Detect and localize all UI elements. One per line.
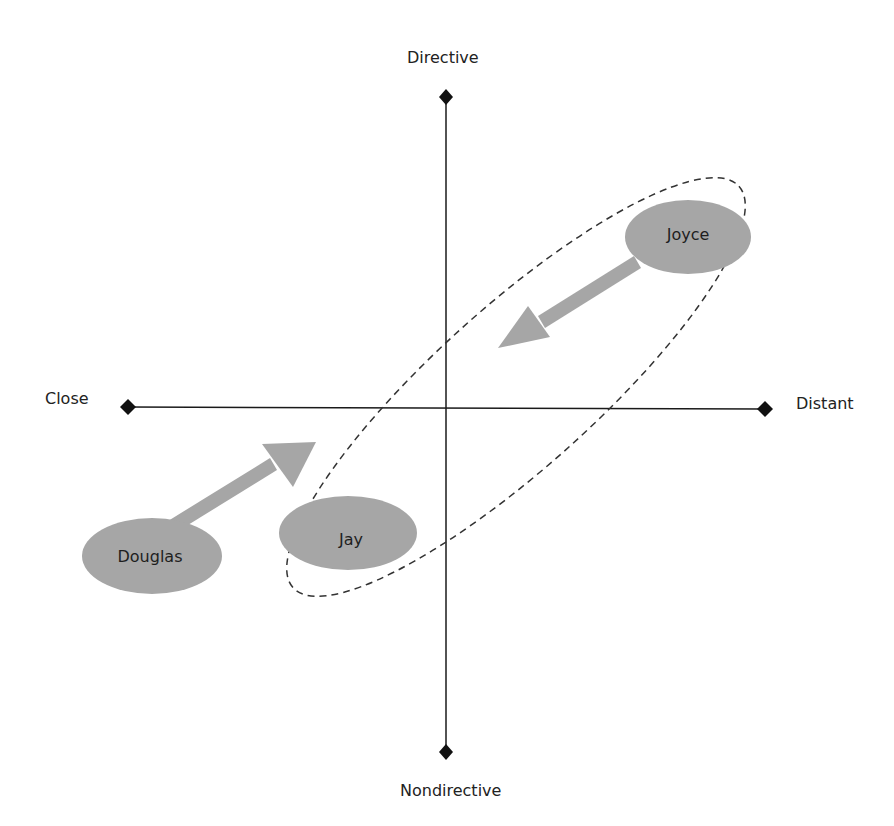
- joyce-arrow: [498, 256, 641, 348]
- axis-label-close: Close: [45, 389, 89, 408]
- diamond-top-icon: [439, 89, 453, 105]
- axis-label-directive: Directive: [407, 48, 479, 67]
- node-label-jay: Jay: [339, 530, 363, 549]
- diagram-canvas: [0, 0, 894, 826]
- diamond-bottom-icon: [439, 744, 453, 760]
- axis-label-distant: Distant: [796, 394, 854, 413]
- node-label-joyce: Joyce: [667, 225, 710, 244]
- diamond-right-icon: [757, 401, 773, 417]
- horizontal-axis: [128, 407, 765, 409]
- axis-label-nondirective: Nondirective: [400, 781, 501, 800]
- diamond-left-icon: [120, 399, 136, 415]
- node-label-douglas: Douglas: [118, 547, 183, 566]
